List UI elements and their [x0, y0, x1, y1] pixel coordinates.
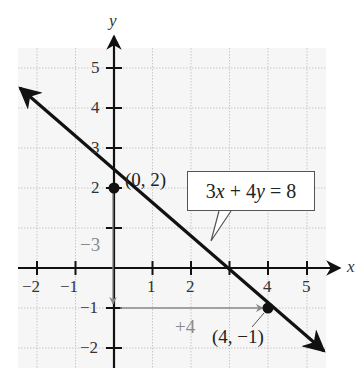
x-tick-label: 4 — [263, 278, 272, 295]
y-tick-label: 4 — [91, 99, 100, 116]
equation-callout: 3x + 4y = 8 — [187, 171, 315, 211]
x-tick-label: 2 — [186, 278, 195, 295]
run-label: +4 — [175, 317, 195, 336]
equation-text: 3x + 4y = 8 — [206, 180, 296, 203]
x-tick-label: 1 — [147, 278, 156, 295]
x-tick-label: 5 — [302, 278, 311, 295]
y-tick-label: 3 — [91, 139, 100, 156]
x-axis-label: x — [347, 258, 355, 275]
y-tick-label: 2 — [91, 179, 100, 196]
y-tick-label: −2 — [80, 339, 98, 356]
point-0-2 — [109, 183, 120, 194]
y-tick-label: −1 — [80, 299, 98, 316]
x-tick-label: −1 — [60, 278, 78, 295]
point-b-label: (4, −1) — [212, 327, 264, 346]
x-tick-label: −2 — [22, 278, 40, 295]
point-a-label: (0, 2) — [125, 170, 166, 189]
y-tick-label: 5 — [91, 59, 100, 76]
y-axis-label: y — [109, 12, 117, 29]
point-4-neg1 — [263, 303, 274, 314]
rise-label: −3 — [80, 235, 100, 254]
